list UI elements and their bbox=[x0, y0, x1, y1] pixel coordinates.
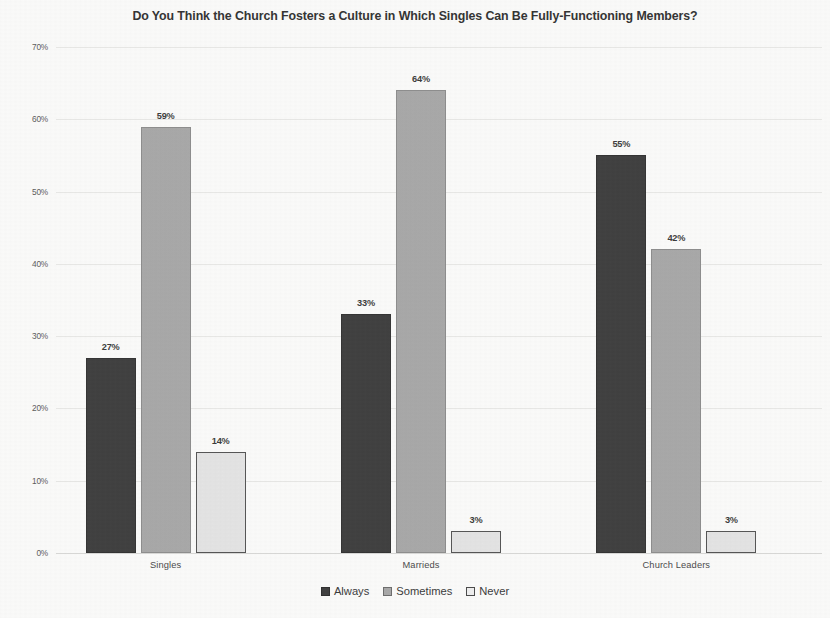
bar-church-leaders-never: 3% bbox=[706, 531, 756, 553]
chart-legend: AlwaysSometimesNever bbox=[0, 586, 830, 597]
bar-fill bbox=[196, 452, 246, 553]
bar-chart: Do You Think the Church Fosters a Cultur… bbox=[0, 0, 830, 618]
bar-marrieds-always: 33% bbox=[341, 314, 391, 553]
bar-fill bbox=[596, 155, 646, 553]
bar-marrieds-sometimes: 64% bbox=[396, 90, 446, 553]
bar-singles-sometimes: 59% bbox=[141, 127, 191, 553]
gridline-70 bbox=[56, 47, 822, 48]
bar-fill bbox=[451, 531, 501, 553]
legend-item-never[interactable]: Never bbox=[466, 586, 509, 597]
y-axis-tick-label: 40% bbox=[8, 259, 48, 269]
bar-value-label: 3% bbox=[470, 515, 483, 525]
legend-label: Never bbox=[479, 586, 509, 597]
category-label-church-leaders: Church Leaders bbox=[596, 560, 756, 570]
bar-value-label: 55% bbox=[612, 139, 630, 149]
bar-fill bbox=[651, 249, 701, 553]
bar-fill bbox=[341, 314, 391, 553]
legend-swatch-never-icon bbox=[466, 587, 475, 596]
bar-value-label: 27% bbox=[102, 342, 120, 352]
y-axis-tick-label: 70% bbox=[8, 42, 48, 52]
bar-fill bbox=[396, 90, 446, 553]
bar-value-label: 64% bbox=[412, 74, 430, 84]
legend-item-sometimes[interactable]: Sometimes bbox=[383, 586, 452, 597]
y-axis-tick-label: 50% bbox=[8, 187, 48, 197]
legend-swatch-always-icon bbox=[321, 587, 330, 596]
category-label-singles: Singles bbox=[86, 560, 246, 570]
y-axis-tick-label: 30% bbox=[8, 331, 48, 341]
plot-area: 27%59%14%33%64%3%55%42%3% bbox=[56, 47, 822, 553]
bar-singles-always: 27% bbox=[86, 358, 136, 553]
bar-church-leaders-always: 55% bbox=[596, 155, 646, 553]
bar-value-label: 33% bbox=[357, 298, 375, 308]
bar-singles-never: 14% bbox=[196, 452, 246, 553]
bar-church-leaders-sometimes: 42% bbox=[651, 249, 701, 553]
bar-value-label: 59% bbox=[157, 111, 175, 121]
y-axis-tick-label: 0% bbox=[8, 548, 48, 558]
bar-value-label: 3% bbox=[725, 515, 738, 525]
bar-fill bbox=[86, 358, 136, 553]
legend-item-always[interactable]: Always bbox=[321, 586, 369, 597]
legend-label: Always bbox=[334, 586, 369, 597]
legend-label: Sometimes bbox=[396, 586, 452, 597]
bar-fill bbox=[706, 531, 756, 553]
legend-swatch-sometimes-icon bbox=[383, 587, 392, 596]
y-axis-tick-label: 10% bbox=[8, 476, 48, 486]
bar-value-label: 42% bbox=[667, 233, 685, 243]
bar-value-label: 14% bbox=[212, 436, 230, 446]
category-label-marrieds: Marrieds bbox=[341, 560, 501, 570]
chart-title: Do You Think the Church Fosters a Cultur… bbox=[0, 9, 830, 23]
y-axis-tick-label: 60% bbox=[8, 114, 48, 124]
bar-marrieds-never: 3% bbox=[451, 531, 501, 553]
bar-fill bbox=[141, 127, 191, 553]
y-axis-tick-label: 20% bbox=[8, 403, 48, 413]
gridline-0 bbox=[56, 553, 822, 554]
